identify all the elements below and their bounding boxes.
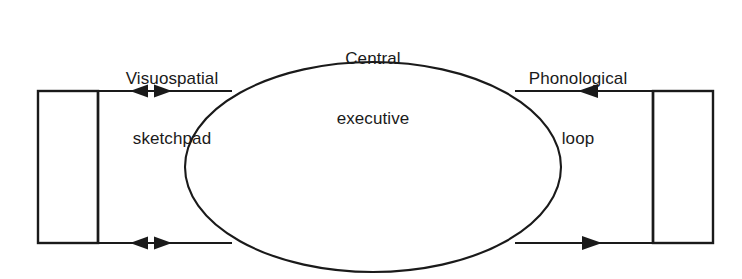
working-memory-diagram: Visuospatial sketchpad Central executive… — [0, 0, 742, 279]
visuospatial-sketchpad-label-line1: Visuospatial — [97, 69, 247, 89]
phonological-loop-box — [653, 91, 713, 243]
bottom-left-arrowhead-right — [154, 237, 172, 250]
visuospatial-sketchpad-label-line2: sketchpad — [97, 129, 247, 149]
phonological-loop-label-line2: loop — [503, 129, 653, 149]
phonological-loop-label-line1: Phonological — [503, 69, 653, 89]
central-executive-label-line1: Central — [298, 49, 448, 69]
visuospatial-sketchpad-label: Visuospatial sketchpad — [97, 29, 247, 189]
phonological-loop-label: Phonological loop — [503, 29, 653, 189]
visuospatial-sketchpad-box — [38, 91, 98, 243]
bottom-right-arrowhead-right — [582, 236, 602, 250]
central-executive-label-line2: executive — [298, 109, 448, 129]
bottom-left-arrowhead-left — [130, 237, 148, 250]
central-executive-label: Central executive — [298, 9, 448, 169]
